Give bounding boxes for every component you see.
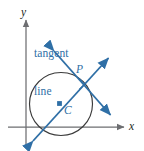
tangent-line-label-row1: tangent	[34, 47, 69, 60]
figure-canvas	[0, 0, 144, 151]
tangent-circle-figure: tangent line y x P C	[0, 0, 144, 151]
center-c-label: C	[64, 104, 72, 117]
point-p-label: P	[76, 63, 83, 76]
tangent-line-label-row2: line	[34, 85, 69, 98]
y-axis-label: y	[21, 6, 26, 19]
x-axis-label: x	[129, 120, 134, 133]
